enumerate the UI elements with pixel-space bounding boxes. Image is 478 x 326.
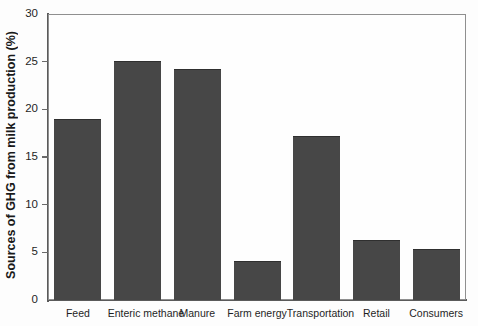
bars-group <box>48 14 466 300</box>
y-axis-tick-label: 0 <box>4 293 38 305</box>
bar-enteric-methane[interactable] <box>114 61 161 300</box>
x-axis-label-feed: Feed <box>48 307 108 319</box>
x-axis-label-farm-energy: Farm energy <box>227 307 287 319</box>
y-axis-tick-label: 15 <box>4 150 38 162</box>
x-axis-label-enteric-methane: Enteric methane <box>108 307 168 319</box>
bar-consumers[interactable] <box>413 249 460 300</box>
bar-retail[interactable] <box>353 240 400 300</box>
bar-chart: Sources of GHG from milk production (%) … <box>0 0 478 326</box>
y-axis-tick-label: 10 <box>4 198 38 210</box>
y-axis-tick-label: 25 <box>4 55 38 67</box>
y-axis-tick-label: 30 <box>4 7 38 19</box>
y-axis-tick-label: 20 <box>4 102 38 114</box>
bar-manure[interactable] <box>174 69 221 300</box>
bar-feed[interactable] <box>54 119 101 300</box>
x-axis-label-consumers: Consumers <box>406 307 466 319</box>
x-axis-label-transportation: Transportation <box>287 307 347 319</box>
bar-transportation[interactable] <box>293 136 340 300</box>
x-axis-label-retail: Retail <box>347 307 407 319</box>
bar-farm-energy[interactable] <box>234 261 281 300</box>
x-axis-label-manure: Manure <box>167 307 227 319</box>
y-axis-tick-label: 5 <box>4 245 38 257</box>
